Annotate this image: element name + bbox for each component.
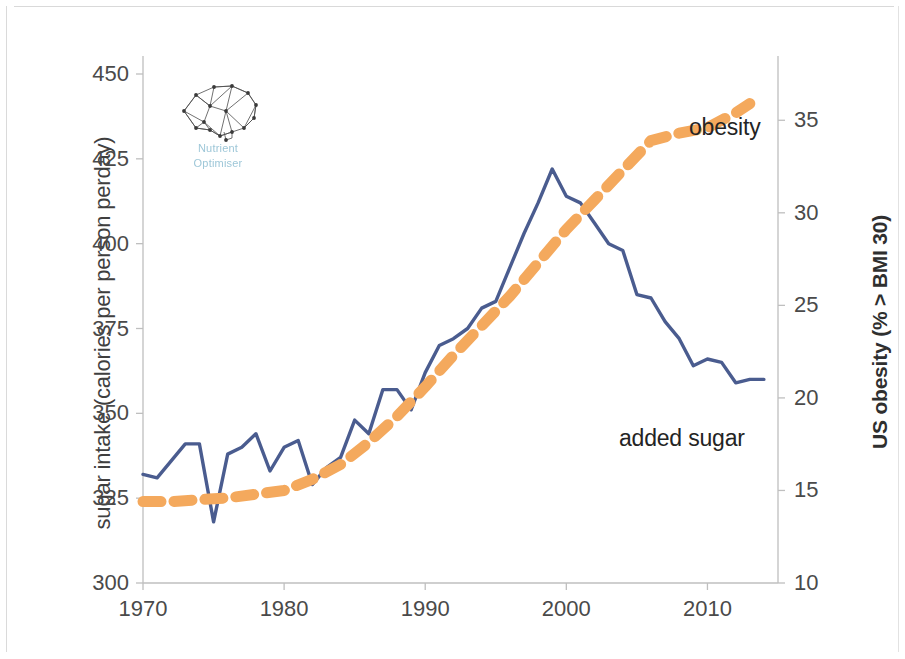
x-tick-label: 1980 — [239, 598, 329, 620]
chart-figure: sugar intake (calories per person perday… — [0, 0, 905, 659]
x-tick-label: 2010 — [662, 598, 752, 620]
left-tick-label: 450 — [59, 63, 129, 85]
plot-area — [0, 0, 905, 659]
left-tick-label: 400 — [59, 233, 129, 255]
series-label-obesity: obesity — [689, 114, 760, 141]
left-tick-label: 375 — [59, 318, 129, 340]
logo-name: Nutrient — [170, 141, 266, 156]
x-tick-label: 1970 — [98, 598, 188, 620]
right-tick-label: 30 — [794, 202, 854, 224]
right-tick-label: 25 — [794, 294, 854, 316]
right-tick-label: 35 — [794, 109, 854, 131]
series-path-added-sugar — [143, 169, 764, 522]
left-tick-label: 425 — [59, 148, 129, 170]
brain-network-icon — [174, 78, 262, 144]
left-tick-label: 350 — [59, 402, 129, 424]
right-tick-label: 20 — [794, 387, 854, 409]
x-tick-label: 2000 — [521, 598, 611, 620]
left-tick-label: 325 — [59, 487, 129, 509]
logo-subtitle: Optimiser — [170, 156, 266, 171]
nutrient-optimiser-logo: Nutrient Optimiser — [170, 78, 266, 178]
right-tick-label: 10 — [794, 572, 854, 594]
x-tick-label: 1990 — [380, 598, 470, 620]
right-axis-title: US obesity (% > BMI 30) — [868, 72, 892, 592]
right-tick-label: 15 — [794, 479, 854, 501]
logo-text: Nutrient Optimiser — [170, 141, 266, 171]
left-tick-label: 300 — [59, 572, 129, 594]
series-label-added-sugar: added sugar — [619, 425, 745, 452]
